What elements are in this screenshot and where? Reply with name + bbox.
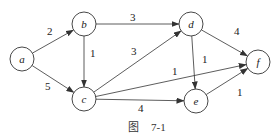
edge-weight-a-c: 5 (45, 80, 51, 92)
node-label: d (188, 18, 194, 30)
caption-number: 7-1 (151, 121, 166, 133)
edge-a-c (32, 66, 74, 93)
weighted-directed-graph: abcdef 2513314411 图 7-1 (0, 0, 278, 137)
node-label: e (194, 95, 199, 107)
edge-c-d (94, 31, 181, 92)
edge-weight-d-f: 4 (234, 25, 240, 37)
edge-weight-e-f: 1 (237, 86, 243, 98)
node-f: f (246, 50, 270, 74)
edge-weight-c-f: 1 (172, 65, 178, 77)
edge-d-f (201, 30, 247, 56)
edge-c-f (96, 64, 247, 96)
node-label: a (19, 53, 25, 65)
caption-figure: 图 (128, 121, 139, 133)
edge-a-b (32, 30, 73, 53)
edge-weight-b-d: 3 (130, 11, 136, 23)
edge-weight-d-e: 1 (202, 53, 208, 65)
node-c: c (72, 87, 96, 111)
node-e: e (184, 89, 208, 113)
node-b: b (72, 12, 96, 36)
node-d: d (179, 12, 203, 36)
node-label: c (82, 93, 87, 105)
edge-weight-c-d: 3 (131, 45, 137, 57)
edge-weight-a-b: 2 (47, 25, 53, 37)
edges (32, 24, 248, 101)
node-label: b (81, 18, 87, 30)
edge-c-e (96, 99, 184, 101)
edge-weight-c-e: 4 (138, 102, 144, 114)
edge-weight-b-c: 1 (90, 47, 96, 59)
edge-d-e (192, 36, 195, 89)
node-a: a (10, 47, 34, 71)
